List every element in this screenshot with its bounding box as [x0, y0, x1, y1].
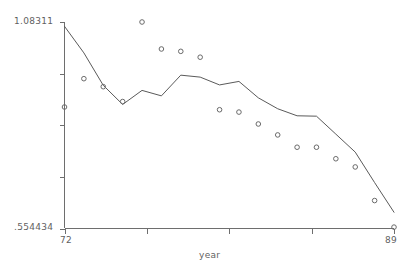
x-axis-title: year — [199, 250, 220, 260]
data-point-marker — [275, 133, 280, 138]
x-axis-ticks — [66, 229, 395, 234]
x-axis-max-label: 89 — [385, 235, 397, 245]
fitted-line-series — [65, 26, 395, 212]
y-axis-ticks — [60, 23, 65, 230]
data-point-marker — [334, 156, 339, 161]
data-point-marker — [198, 55, 203, 60]
data-point-marker — [372, 198, 377, 203]
chart-container: 1.08311 .554434 72 89 year — [0, 0, 416, 274]
axes — [65, 22, 395, 229]
data-point-marker — [178, 49, 183, 54]
x-axis-min-label: 72 — [60, 235, 72, 245]
data-point-marker — [82, 76, 87, 81]
data-point-marker — [217, 107, 222, 112]
observed-scatter-series — [62, 20, 396, 230]
data-point-marker — [237, 110, 242, 115]
data-point-marker — [159, 47, 164, 52]
data-point-marker — [120, 99, 125, 104]
data-point-marker — [256, 122, 261, 127]
data-point-marker — [314, 145, 319, 150]
data-point-marker — [295, 145, 300, 150]
data-point-marker — [140, 20, 145, 25]
chart-plot-area — [0, 0, 416, 274]
data-point-marker — [353, 165, 358, 170]
y-axis-max-label: 1.08311 — [14, 16, 53, 26]
y-axis-min-label: .554434 — [14, 222, 53, 232]
